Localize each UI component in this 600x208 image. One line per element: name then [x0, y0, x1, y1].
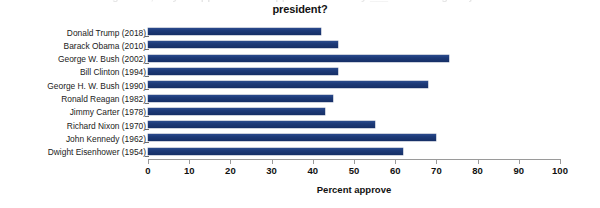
x-tick-label: 70 — [431, 165, 442, 176]
x-tick-mark — [354, 159, 355, 164]
x-tick-mark — [560, 159, 561, 164]
x-axis-title: Percent approve — [148, 184, 560, 195]
bar — [148, 55, 449, 62]
bar — [148, 68, 338, 75]
x-tick-mark — [436, 159, 437, 164]
x-tick-mark — [148, 159, 149, 164]
x-tick-mark — [189, 159, 190, 164]
bar — [148, 28, 321, 35]
category-label: Barack Obama (2010) — [64, 42, 146, 50]
x-tick-label: 60 — [390, 165, 401, 176]
x-tick-mark — [272, 159, 273, 164]
x-tick-label: 100 — [552, 165, 568, 176]
category-label: Bill Clinton (1994) — [80, 68, 146, 76]
x-tick-label: 10 — [184, 165, 195, 176]
category-label: Ronald Reagan (1982) — [61, 95, 146, 103]
bar-chart-plot-area: 0102030405060708090100 Donald Trump (201… — [0, 0, 600, 208]
x-tick-mark — [230, 159, 231, 164]
bar — [148, 121, 375, 128]
bar — [148, 148, 403, 155]
category-label: Jimmy Carter (1978) — [70, 108, 146, 116]
x-tick-label: 30 — [266, 165, 277, 176]
x-tick-mark — [395, 159, 396, 164]
x-tick-mark — [478, 159, 479, 164]
x-tick-label: 50 — [349, 165, 360, 176]
x-tick-label: 0 — [145, 165, 150, 176]
bar — [148, 108, 325, 115]
bar — [148, 95, 333, 102]
category-label: Richard Nixon (1970) — [67, 122, 146, 130]
x-tick-label: 90 — [514, 165, 525, 176]
x-tick-mark — [519, 159, 520, 164]
x-tick-label: 20 — [225, 165, 236, 176]
x-tick-mark — [313, 159, 314, 164]
bar — [148, 81, 428, 88]
category-label: George W. Bush (2002) — [58, 55, 146, 63]
x-tick-label: 40 — [308, 165, 319, 176]
category-label: Dwight Eisenhower (1954) — [48, 148, 146, 156]
category-label: Donald Trump (2018) — [67, 29, 146, 37]
x-tick-label: 80 — [472, 165, 483, 176]
bar — [148, 134, 436, 141]
category-label: George H. W. Bush (1990) — [47, 82, 146, 90]
bar — [148, 41, 338, 48]
category-label: John Kennedy (1962) — [66, 135, 146, 143]
